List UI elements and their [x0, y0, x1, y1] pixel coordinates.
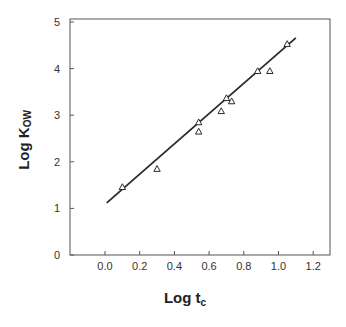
x-tick-label: 1.2	[306, 260, 321, 272]
x-tick-label: 0.4	[167, 260, 182, 272]
triangle-marker	[154, 166, 160, 172]
regression-line	[107, 38, 296, 203]
x-tick-label: 0.2	[132, 260, 147, 272]
axes-box	[70, 19, 330, 255]
y-tick-label: 5	[54, 16, 60, 28]
x-tick-label: 1.0	[271, 260, 286, 272]
data-points	[119, 41, 290, 190]
x-axis-ticks: 0.00.20.40.60.81.01.2	[97, 251, 320, 272]
y-axis-ticks: 012345	[54, 16, 74, 261]
y-tick-label: 4	[54, 63, 60, 75]
triangle-marker	[195, 128, 201, 134]
y-tick-label: 3	[54, 109, 60, 121]
y-tick-label: 1	[54, 202, 60, 214]
y-axis-title: Log KOW	[15, 110, 33, 170]
x-tick-label: 0.0	[97, 260, 112, 272]
y-tick-label: 2	[54, 156, 60, 168]
triangle-marker	[267, 68, 273, 74]
triangle-marker	[218, 108, 224, 114]
scatter-chart: 012345 0.00.20.40.60.81.01.2 Log tc Log …	[0, 0, 346, 327]
x-axis-title: Log tc	[164, 289, 207, 308]
plot-frame	[70, 19, 330, 255]
x-tick-label: 0.8	[236, 260, 251, 272]
y-tick-label: 0	[54, 249, 60, 261]
x-tick-label: 0.6	[201, 260, 216, 272]
